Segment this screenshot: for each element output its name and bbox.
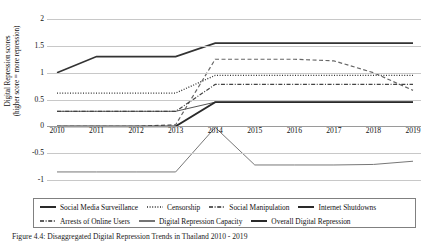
legend-item-label: Censorship xyxy=(167,203,200,212)
x-tick-label: 2018 xyxy=(352,126,394,135)
legend-line-swatch xyxy=(147,203,163,211)
figure-caption: Figure 4.4: Disaggregated Digital Repres… xyxy=(12,232,422,242)
y-tick-label: 2 xyxy=(18,15,44,23)
gridline xyxy=(47,19,421,20)
y-axis-tick-labels: 21.510.50-0.5-1 xyxy=(14,0,44,196)
y-tick-label: -1 xyxy=(18,176,44,184)
chart-plot-area: Digital Repression scores (higher score … xyxy=(0,0,430,196)
gridline xyxy=(47,180,421,181)
legend-item-label: Arrests of Online Users xyxy=(60,217,130,226)
legend-line-swatch xyxy=(209,203,225,211)
y-axis-title-line1: Digital Repression scores xyxy=(4,36,12,107)
x-tick-label: 2012 xyxy=(115,126,157,135)
legend-line-swatch xyxy=(40,217,56,225)
legend-item[interactable]: Overall Digital Repression xyxy=(251,217,350,226)
legend-line-swatch xyxy=(40,203,56,211)
legend-row-2: Arrests of Online UsersDigital Repressio… xyxy=(34,214,415,228)
x-tick-label: 2011 xyxy=(76,126,118,135)
x-tick-label: 2015 xyxy=(234,126,276,135)
figure-container: Digital Repression scores (higher score … xyxy=(0,0,430,247)
legend-item-label: Social Manipulation xyxy=(229,203,289,212)
chart-series-svg xyxy=(47,0,421,196)
gridline xyxy=(47,73,421,74)
gridline xyxy=(47,46,421,47)
legend-item-label: Overall Digital Repression xyxy=(271,217,350,226)
y-tick-label: -0.5 xyxy=(18,149,44,157)
y-tick-label: 1 xyxy=(18,69,44,77)
x-tick-label: 2017 xyxy=(313,126,355,135)
x-tick-label: 2014 xyxy=(194,126,236,135)
legend-item-label: Digital Repression Capacity xyxy=(159,217,242,226)
legend-line-swatch xyxy=(251,217,267,225)
figure-caption-text: Figure 4.4: Disaggregated Digital Repres… xyxy=(12,232,247,241)
series-line xyxy=(57,102,413,111)
x-tick-label: 2013 xyxy=(155,126,197,135)
series-line xyxy=(57,102,413,126)
legend-item[interactable]: Censorship xyxy=(147,203,200,212)
x-tick-label: 2019 xyxy=(392,126,430,135)
x-tick-label: 2010 xyxy=(36,126,78,135)
chart-legend: Social Media SurveillanceCensorshipSocia… xyxy=(33,198,416,228)
legend-line-swatch xyxy=(298,203,314,211)
legend-item[interactable]: Internet Shutdowns xyxy=(298,203,376,212)
y-tick-label: 0.5 xyxy=(18,96,44,104)
x-tick-label: 2016 xyxy=(273,126,315,135)
legend-item[interactable]: Arrests of Online Users xyxy=(40,217,130,226)
series-line xyxy=(57,84,413,111)
legend-item-label: Social Media Surveillance xyxy=(60,203,138,212)
legend-item-label: Internet Shutdowns xyxy=(318,203,376,212)
chart-grid-area: 2010201120122013201420152016201720182019 xyxy=(47,0,421,196)
legend-row-1: Social Media SurveillanceCensorshipSocia… xyxy=(34,200,415,214)
legend-item[interactable]: Social Media Surveillance xyxy=(40,203,138,212)
gridline xyxy=(47,153,421,154)
legend-item[interactable]: Digital Repression Capacity xyxy=(139,217,242,226)
gridline xyxy=(47,100,421,101)
legend-item[interactable]: Social Manipulation xyxy=(209,203,289,212)
legend-line-swatch xyxy=(139,217,155,225)
y-tick-label: 1.5 xyxy=(18,42,44,50)
series-line xyxy=(57,59,413,126)
